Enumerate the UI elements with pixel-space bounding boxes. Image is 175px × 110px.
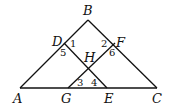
angle-label-2: 2 [101,38,107,49]
label-B: B [82,3,93,18]
segment-BC [88,20,157,88]
angle-label-6: 6 [109,47,115,58]
angle-label-1: 1 [70,38,76,49]
label-G: G [61,91,71,106]
label-H: H [83,50,96,65]
geometry-diagram: B D F H A G E C 1 2 5 6 3 4 [0,0,175,110]
angle-label-4: 4 [91,77,97,88]
angle-label-3: 3 [77,77,83,88]
label-E: E [103,91,114,106]
label-A: A [12,91,22,106]
angle-label-5: 5 [60,47,66,58]
label-F: F [115,35,126,50]
label-C: C [152,91,162,106]
